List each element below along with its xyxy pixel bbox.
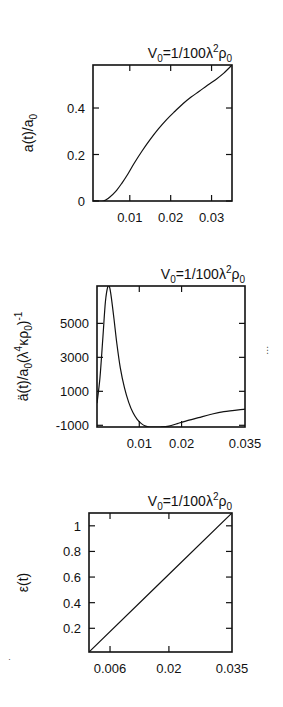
- data-line: [93, 65, 232, 201]
- figure: 0.010.020.0300.20.4V0=1/100λ2ρ0a(t)/a0 0…: [0, 0, 283, 707]
- y-axis-label: a(t)/a0: [20, 113, 39, 152]
- y-tick-label: 0.2: [63, 621, 81, 636]
- y-tick-label: 0.2: [67, 148, 85, 163]
- x-tick-label: 0.02: [156, 661, 181, 676]
- figure-canvas: 0.010.020.0300.20.4V0=1/100λ2ρ0a(t)/a0 0…: [0, 0, 283, 707]
- y-tick-label: 0.4: [63, 596, 81, 611]
- x-tick-label: 0.02: [169, 436, 194, 451]
- y-tick-label: 1: [74, 519, 81, 534]
- plot-scale-factor: 0.010.020.0300.20.4V0=1/100λ2ρ0a(t)/a0: [20, 43, 232, 225]
- data-line: [89, 513, 232, 652]
- plot-title: V0=1/100λ2ρ0: [148, 491, 233, 512]
- x-tick-label: 0.035: [216, 661, 249, 676]
- x-tick-label: 0.035: [229, 436, 262, 451]
- data-line: [97, 285, 245, 427]
- x-tick-label: 0.02: [158, 210, 183, 225]
- plot-epsilon: 0.0060.020.0350.20.40.60.81V0=1/100λ2ρ0ε…: [15, 491, 248, 676]
- x-tick-label: 0.01: [117, 210, 142, 225]
- y-axis-label: ε(t): [15, 573, 31, 592]
- y-tick-label: 5000: [60, 316, 89, 331]
- y-tick-label: 1000: [60, 384, 89, 399]
- y-axis-label: ä(t)/a0(λ4κρ0)-1: [13, 311, 34, 401]
- plot-title: V0=1/100λ2ρ0: [148, 43, 233, 64]
- y-tick-label: 3000: [60, 350, 89, 365]
- plot-acceleration: 0.010.020.035-1000100030005000V0=1/100λ2…: [13, 264, 261, 451]
- x-tick-label: 0.03: [199, 210, 224, 225]
- y-tick-label: 0.6: [63, 570, 81, 585]
- plot-frame: [93, 65, 232, 201]
- y-tick-label: 0.4: [67, 101, 85, 116]
- plot-title: V0=1/100λ2ρ0: [161, 264, 246, 285]
- y-tick-label: -1000: [56, 418, 89, 433]
- stray-mark: ⋮: [263, 346, 272, 355]
- x-tick-label: 0.006: [94, 661, 127, 676]
- y-tick-label: 0.8: [63, 544, 81, 559]
- stray-mark: ·: [8, 655, 11, 664]
- x-tick-label: 0.01: [127, 436, 152, 451]
- plot-frame: [97, 286, 245, 427]
- y-tick-label: 0: [78, 194, 85, 209]
